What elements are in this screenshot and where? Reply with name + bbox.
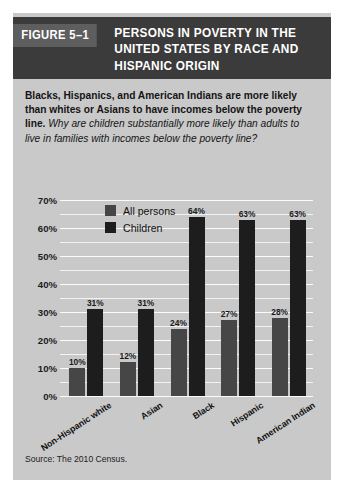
- legend-label-all-persons: All persons: [123, 205, 175, 217]
- bar-value-label: 12%: [120, 351, 137, 361]
- bar-children: [189, 217, 205, 396]
- legend-label-children: Children: [123, 222, 162, 234]
- y-axis-tick-label: 70%: [17, 195, 57, 206]
- bar-children: [87, 309, 103, 396]
- gridline: [60, 256, 313, 257]
- bar-children: [239, 220, 255, 396]
- y-axis-tick-labels: 0%10%20%30%40%50%60%70%: [13, 200, 57, 396]
- bar-value-label: 31%: [87, 298, 104, 308]
- figure-title-bar: FIGURE 5–1 PERSONS IN POVERTY IN THE UNI…: [13, 17, 331, 79]
- y-axis-tick-label: 50%: [17, 251, 57, 262]
- gridline: [60, 242, 313, 243]
- caption-italic-question: Why are children substantially more like…: [25, 118, 299, 143]
- legend-swatch-children-icon: [105, 222, 116, 233]
- figure-panel: FIGURE 5–1 PERSONS IN POVERTY IN THE UNI…: [13, 13, 331, 480]
- gridline: [60, 396, 313, 397]
- y-axis-tick-label: 30%: [17, 307, 57, 318]
- legend-swatch-all-persons-icon: [105, 205, 116, 216]
- bar-all-persons: [69, 368, 85, 396]
- gridline: [60, 214, 313, 215]
- gridline: [60, 284, 313, 285]
- x-axis-category-label: Hispanic: [229, 400, 265, 428]
- chart-legend: All persons Children: [105, 202, 175, 236]
- y-axis-tick-label: 0%: [17, 391, 57, 402]
- gridline: [60, 228, 313, 229]
- bar-all-persons: [120, 362, 136, 396]
- bar-value-label: 63%: [239, 209, 256, 219]
- bar-value-label: 28%: [271, 307, 288, 317]
- legend-item-children: Children: [105, 219, 175, 236]
- bar-value-label: 24%: [170, 318, 187, 328]
- y-axis-tick-label: 20%: [17, 335, 57, 346]
- bar-value-label: 63%: [289, 209, 306, 219]
- bar-value-label: 10%: [69, 357, 86, 367]
- figure-caption: Blacks, Hispanics, and American Indians …: [25, 89, 317, 146]
- x-axis-category-label: Asian: [139, 400, 165, 421]
- gridline: [60, 270, 313, 271]
- x-axis-category-label: Black: [190, 400, 215, 421]
- bar-all-persons: [221, 320, 237, 396]
- legend-item-all-persons: All persons: [105, 202, 175, 219]
- figure-number-badge: FIGURE 5–1: [13, 24, 97, 47]
- bar-children: [290, 220, 306, 396]
- x-axis-category-label: Non-Hispanic white: [39, 400, 113, 453]
- bar-value-label: 27%: [221, 309, 238, 319]
- bar-children: [138, 309, 154, 396]
- figure-title: PERSONS IN POVERTY IN THE UNITED STATES …: [104, 17, 318, 74]
- source-note: Source: The 2010 Census.: [25, 454, 127, 464]
- bar-all-persons: [171, 329, 187, 396]
- bar-value-label: 64%: [188, 206, 205, 216]
- gridline: [60, 200, 313, 201]
- y-axis-tick-label: 10%: [17, 363, 57, 374]
- y-axis-tick-label: 60%: [17, 223, 57, 234]
- y-axis-tick-label: 40%: [17, 279, 57, 290]
- bar-value-label: 31%: [138, 298, 155, 308]
- bar-chart: 0%10%20%30%40%50%60%70% All persons Chil…: [13, 183, 331, 451]
- bar-all-persons: [272, 318, 288, 396]
